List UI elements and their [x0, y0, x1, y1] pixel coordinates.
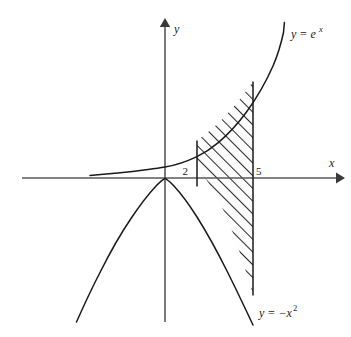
- exponential-curve-label-exponent: x: [318, 24, 323, 34]
- figure-canvas: y x 2 5 y = e x y = −x 2: [0, 0, 351, 337]
- exponential-curve-label-base: y = e: [290, 27, 316, 41]
- parabola-curve-label-exponent: 2: [293, 303, 297, 313]
- x-tick-label-5: 5: [256, 165, 262, 177]
- x-tick-label-2: 2: [183, 165, 189, 177]
- exponential-curve-path: [90, 23, 284, 176]
- y-axis-label: y: [173, 22, 180, 36]
- y-axis-arrowhead: [160, 18, 170, 27]
- math-figure: y x 2 5 y = e x y = −x 2: [0, 0, 351, 337]
- x-axis-label: x: [328, 156, 335, 170]
- x-axis-arrowhead: [336, 173, 345, 184]
- parabola-curve-label-base: y = −x: [258, 306, 293, 320]
- exponential-curve-label: y = e x: [290, 24, 323, 41]
- exponential-curve: [90, 23, 284, 176]
- parabola-curve-label: y = −x 2: [258, 303, 297, 320]
